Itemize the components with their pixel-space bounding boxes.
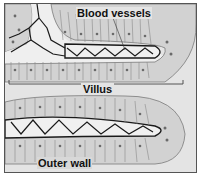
label-outer-wall: Outer wall bbox=[37, 157, 92, 169]
label-blood-vessels: Blood vessels bbox=[76, 7, 152, 19]
label-villus: Villus bbox=[81, 83, 114, 95]
upper-villus-core bbox=[65, 44, 160, 58]
diagram-frame: Blood vessels Villus Outer wall bbox=[4, 3, 197, 173]
